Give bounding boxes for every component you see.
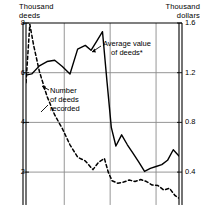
plot-area	[0, 0, 202, 208]
series-label-number-of-deeds-line2: of deeds	[50, 95, 79, 104]
series-label-number-of-deeds-line3: recorded	[50, 104, 80, 113]
series-label-average-value-line1: Average value	[103, 39, 151, 48]
leader-number-of-deeds-lower	[41, 105, 48, 112]
series-label-average-value: Average valueof deeds*	[103, 39, 151, 57]
series-label-average-value-line2: of deeds*	[111, 48, 143, 57]
series-label-number-of-deeds: Numberof deedsrecorded	[50, 86, 80, 113]
chart-container: Thousanddeeds Thousanddollars 8 6 4 2 1.…	[0, 0, 202, 208]
series-label-number-of-deeds-line1: Number	[50, 86, 77, 95]
